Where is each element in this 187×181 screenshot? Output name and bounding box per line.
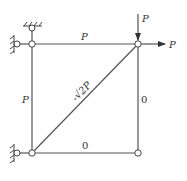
joint-top-support: [29, 25, 35, 31]
member-diagonal: [32, 44, 138, 153]
member-right-label: 0: [141, 94, 147, 105]
load-vertical-label: P: [141, 13, 149, 24]
joint-top-left: [29, 41, 35, 47]
joint-left-upper-support: [14, 41, 20, 47]
truss-svg: P P 0 0 -√2P P P: [0, 0, 187, 181]
joint-top-right: [135, 41, 141, 47]
joint-bottom-right: [135, 150, 141, 156]
member-left-label: P: [21, 94, 29, 105]
truss-diagram: P P 0 0 -√2P P P: [0, 0, 187, 181]
member-diagonal-label: -√2P: [70, 79, 94, 103]
joint-bottom-left: [29, 150, 35, 156]
joint-left-lower-support: [14, 150, 20, 156]
member-top-label: P: [80, 31, 88, 42]
support-left-lower-hatch: [10, 144, 14, 163]
support-left-upper-hatch: [10, 35, 14, 54]
load-horizontal-label: P: [168, 39, 176, 50]
member-bottom-label: 0: [82, 140, 88, 151]
